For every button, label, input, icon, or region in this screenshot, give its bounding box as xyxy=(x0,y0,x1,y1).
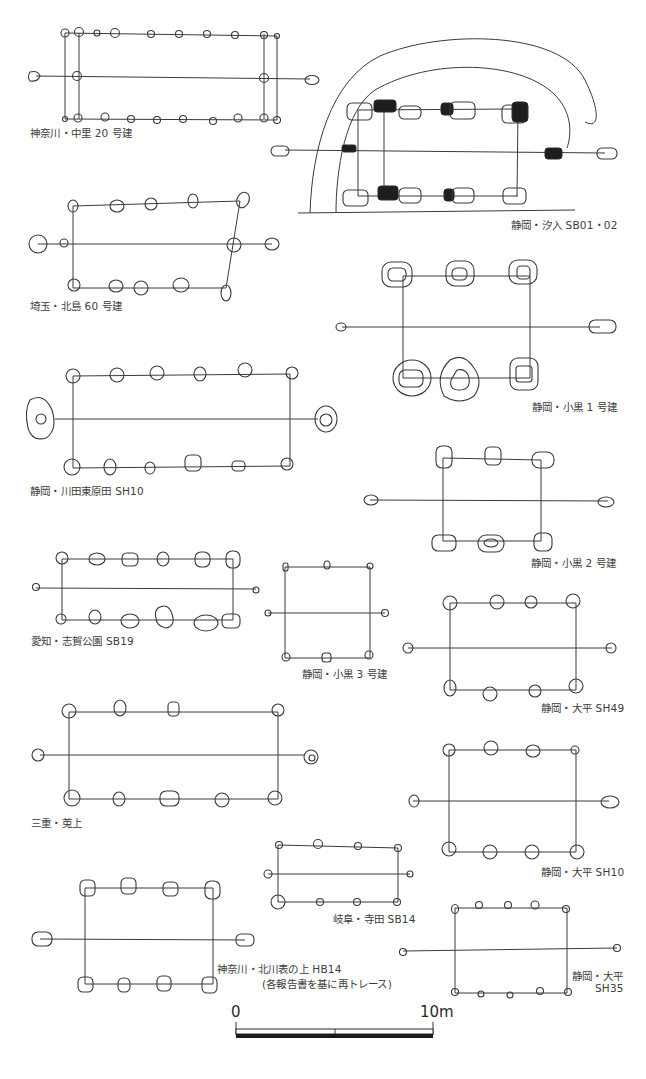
label-kitakawa: 神奈川・北川表の上 HB14 xyxy=(217,961,342,976)
label-nakazato20: 神奈川・中里 20 号建 xyxy=(30,125,132,140)
plan-kouage xyxy=(32,700,318,807)
label-odaira35-line2: SH35 xyxy=(595,982,624,994)
label-kouage: 三重・莵上 xyxy=(31,815,82,830)
plan-koguro3 xyxy=(265,561,389,662)
plan-koguro2 xyxy=(364,446,614,552)
scale-end-label: 10m xyxy=(420,1003,454,1021)
plan-odaira49 xyxy=(403,594,616,701)
plan-terada xyxy=(264,840,413,910)
plan-shigakoen xyxy=(33,551,260,631)
scale-start-label: 0 xyxy=(231,1003,241,1021)
label-terada: 岐阜・寺田 SB14 xyxy=(333,911,416,926)
label-odaira35-line1: 静岡・大平 xyxy=(572,968,623,983)
plans-drawing xyxy=(0,0,646,1079)
label-retrace-note: (各報告書を基に再トレース) xyxy=(262,976,392,991)
label-koguro3: 静岡・小黒 3 号建 xyxy=(302,666,387,681)
label-shionyu: 静岡・汐入 SB01・02 xyxy=(511,217,618,232)
plan-odaira35 xyxy=(400,901,621,998)
scale-bar xyxy=(236,1022,433,1038)
label-odaira49: 静岡・大平 SH49 xyxy=(541,700,624,715)
figure-canvas: 神奈川・中里 20 号建 静岡・汐入 SB01・02 埼玉・北島 60 号建 静… xyxy=(0,0,646,1079)
label-kitajima60: 埼玉・北島 60 号建 xyxy=(30,298,122,313)
plan-odaira10 xyxy=(409,741,619,859)
label-kawadahigashi: 静岡・川田東原田 SH10 xyxy=(30,483,144,498)
plan-nakazato20 xyxy=(29,28,320,125)
label-koguro1: 静岡・小黒 1 号建 xyxy=(532,399,617,414)
plan-shionyu xyxy=(271,39,617,213)
plan-kawadahigashi xyxy=(26,363,337,475)
label-shigakoen: 愛知・志賀公園 SB19 xyxy=(31,633,134,648)
label-koguro2: 静岡・小黒 2 号建 xyxy=(531,555,616,570)
plan-koguro1 xyxy=(336,260,616,401)
plan-kitajima60 xyxy=(29,190,279,301)
label-odaira10: 静岡・大平 SH10 xyxy=(541,864,624,879)
